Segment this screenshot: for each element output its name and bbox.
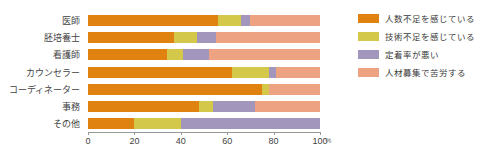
x-axis-line <box>88 132 321 133</box>
bar-segment <box>134 118 180 129</box>
legend-item[interactable]: 人材募集で苦労する <box>358 65 480 80</box>
x-axis-tick <box>181 132 182 135</box>
bar-segment <box>88 49 167 60</box>
x-axis-tick <box>274 132 275 135</box>
bar-segment <box>197 32 216 43</box>
bar-row <box>88 67 320 78</box>
bar-segment <box>88 84 262 95</box>
bar-segment <box>167 49 183 60</box>
category-label: 医師 <box>0 16 84 26</box>
bar-segment <box>250 15 320 26</box>
category-label: 看護師 <box>0 50 84 60</box>
bar-segment <box>174 32 197 43</box>
category-label: 胚培養士 <box>0 33 84 43</box>
bar-segment <box>88 67 232 78</box>
bar-segment <box>88 32 174 43</box>
x-axis-tick-label: 40 <box>176 136 186 146</box>
x-axis-tick-label: 0 <box>85 136 90 146</box>
legend-swatch <box>358 14 379 23</box>
category-label: コーディネーター <box>0 85 84 95</box>
bar-segment <box>232 67 269 78</box>
legend: 人数不足を感じている技術不足を感じている定着率が悪い人材募集で苦労する <box>358 11 480 83</box>
bar-row <box>88 32 320 43</box>
bar-segment <box>88 15 218 26</box>
x-axis-tick-label: 60 <box>222 136 232 146</box>
legend-label: 人材募集で苦労する <box>385 68 466 78</box>
x-axis-unit-label: % <box>325 137 331 144</box>
legend-label: 人数不足を感じている <box>385 14 475 24</box>
bar-row <box>88 118 320 129</box>
bar-segment <box>218 15 241 26</box>
x-axis-tick-label: 80 <box>269 136 279 146</box>
bar-row <box>88 49 320 60</box>
category-label: その他 <box>0 119 84 129</box>
legend-item[interactable]: 定着率が悪い <box>358 47 480 62</box>
legend-swatch <box>358 50 379 59</box>
bar-segment <box>181 118 320 129</box>
bar-row <box>88 15 320 26</box>
legend-swatch <box>358 68 379 77</box>
x-axis-tick <box>134 132 135 135</box>
bar-segment <box>209 49 320 60</box>
bar-segment <box>199 101 213 112</box>
stacked-bar-chart: 医師胚培養士看護師カウンセラーコーディネーター事務その他 02040608010… <box>0 0 482 162</box>
category-axis-labels: 医師胚培養士看護師カウンセラーコーディネーター事務その他 <box>0 12 84 132</box>
plot-area <box>88 12 320 132</box>
legend-swatch <box>358 32 379 41</box>
legend-item[interactable]: 人数不足を感じている <box>358 11 480 26</box>
bar-segment <box>216 32 320 43</box>
bar-segment <box>88 101 199 112</box>
legend-label: 定着率が悪い <box>385 50 439 60</box>
bar-segment <box>262 84 269 95</box>
legend-item[interactable]: 技術不足を感じている <box>358 29 480 44</box>
bar-segment <box>183 49 209 60</box>
category-label: 事務 <box>0 102 84 112</box>
category-label: カウンセラー <box>0 68 84 78</box>
bar-segment <box>255 101 320 112</box>
legend-label: 技術不足を感じている <box>385 32 475 42</box>
bar-segment <box>269 84 320 95</box>
bar-segment <box>213 101 255 112</box>
bar-segment <box>269 67 276 78</box>
bar-segment <box>241 15 250 26</box>
bar-segment <box>276 67 320 78</box>
x-axis-tick-label: 20 <box>129 136 139 146</box>
x-axis-tick <box>320 132 321 135</box>
bar-row <box>88 101 320 112</box>
bar-segment <box>88 118 134 129</box>
bar-row <box>88 84 320 95</box>
x-axis-tick <box>227 132 228 135</box>
x-axis-tick <box>88 132 89 135</box>
